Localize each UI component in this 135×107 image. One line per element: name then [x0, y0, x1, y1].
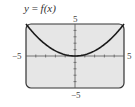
x-max-label: 5	[127, 52, 132, 61]
y-max-label: 5	[73, 15, 78, 24]
x-min-label: −5	[12, 52, 22, 61]
y-min-label: −5	[71, 91, 81, 100]
